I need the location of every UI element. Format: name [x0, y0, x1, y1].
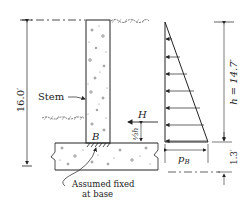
- resultant-location-label: ⅓h: [131, 128, 140, 141]
- pressure-diagram: [165, 22, 208, 142]
- wall-height-label: 16.0′: [15, 87, 26, 112]
- base-point-label: B: [91, 131, 99, 142]
- base-pressure-label: pB: [178, 153, 190, 166]
- soil-surface-front: [42, 116, 84, 120]
- footing-thickness-label: 1.3′: [229, 149, 239, 165]
- stem-label: Stem: [38, 91, 65, 102]
- fixed-base-hatch: [87, 143, 110, 147]
- note-line-2: at base: [82, 189, 113, 199]
- stem: [86, 20, 110, 143]
- pressure-height-label: h = 14.7′: [228, 58, 239, 104]
- soil-surface-top: [111, 19, 149, 23]
- note-line-1: Assumed fixed: [71, 179, 135, 189]
- stem-leader: [68, 97, 85, 99]
- retaining-wall-diagram: 16.0′ Stem: [0, 0, 248, 204]
- resultant-label: H: [137, 109, 147, 120]
- footing: [51, 143, 158, 170]
